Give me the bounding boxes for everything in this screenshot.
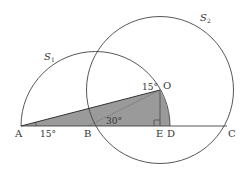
- label-s2: S: [200, 12, 207, 23]
- label-c: C: [228, 128, 236, 139]
- label-o: O: [163, 80, 171, 91]
- angle-label-b: 30°: [106, 116, 122, 126]
- label-d: D: [167, 128, 175, 139]
- label-s2-subscript: 2: [207, 17, 211, 24]
- angle-label-a: 15°: [40, 129, 56, 139]
- label-b: B: [84, 128, 91, 139]
- label-e: E: [156, 128, 163, 139]
- angle-label-o: 15°: [142, 82, 158, 92]
- label-a: A: [14, 128, 23, 139]
- geometry-diagram: A B E D C O S 1 S 2 15° 30° 15°: [0, 0, 248, 175]
- label-s1: S: [44, 51, 51, 62]
- label-s1-subscript: 1: [51, 56, 55, 63]
